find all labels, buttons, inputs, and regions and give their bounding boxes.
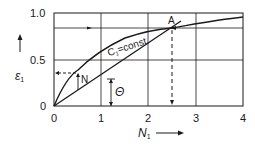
x-tick-0: 0 <box>51 112 57 124</box>
arrow-down-theta-icon <box>109 102 113 106</box>
label-theta: Θ <box>115 85 124 99</box>
curve-c1-const <box>54 17 243 106</box>
arrow-up-theta-icon <box>109 79 113 83</box>
x-tick-1: 1 <box>98 112 104 124</box>
plot-frame <box>54 13 243 106</box>
label-point-a: A <box>168 15 175 26</box>
arrow-up-icon <box>18 34 23 40</box>
x-axis-label: N1 <box>138 126 151 140</box>
svg-text:C1=const.: C1=const. <box>106 34 151 59</box>
arrow-up-n-icon <box>76 73 80 77</box>
arrow-right-icon <box>87 27 92 30</box>
curve-label: C1=const. <box>106 34 151 59</box>
y-tick-05: 0.5 <box>30 54 45 66</box>
y-tick-1: 1.0 <box>30 7 45 19</box>
y-tick-0: 0 <box>40 100 46 112</box>
arrow-down-icon <box>170 100 174 105</box>
label-point-n: N <box>81 74 88 85</box>
x-tick-2: 2 <box>145 112 151 124</box>
x-tick-3: 3 <box>193 112 199 124</box>
x-tick-4: 4 <box>240 112 246 124</box>
y-axis-label: ε1 <box>15 69 24 83</box>
arrow-left-n-icon <box>55 71 59 75</box>
chart: N A Θ C1=const. 1.0 0.5 0 0 1 2 3 4 ε1 N… <box>0 0 255 148</box>
arrow-right-x-icon <box>178 131 184 136</box>
